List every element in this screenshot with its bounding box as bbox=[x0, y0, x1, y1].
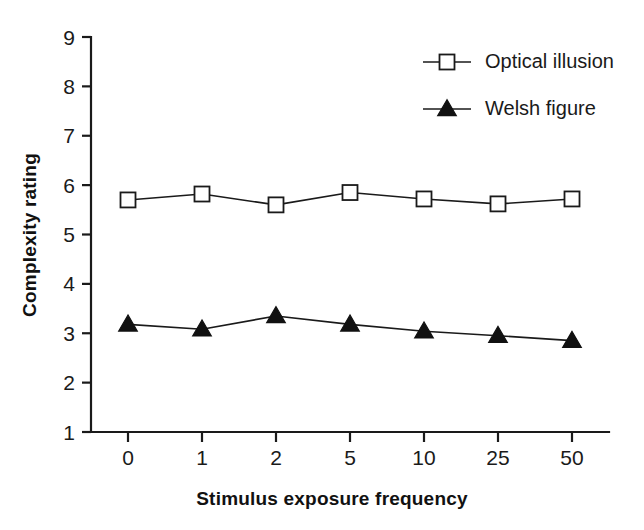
y-axis-ticks bbox=[82, 37, 91, 432]
data-point-marker-square bbox=[565, 191, 580, 206]
x-axis-tick-labels: 0125102550 bbox=[122, 446, 584, 469]
y-axis-tick-labels: 123456789 bbox=[63, 26, 75, 444]
legend-item-welsh-figure[interactable]: Welsh figure bbox=[423, 97, 596, 119]
data-point-marker-triangle bbox=[119, 315, 138, 331]
x-axis: 0125102550 bbox=[91, 432, 609, 469]
y-tick-label: 2 bbox=[63, 371, 75, 394]
y-tick-label: 7 bbox=[63, 124, 75, 147]
x-tick-label: 10 bbox=[412, 446, 435, 469]
data-point-marker-square bbox=[440, 55, 455, 70]
data-point-marker-square bbox=[195, 187, 210, 202]
y-tick-label: 4 bbox=[63, 272, 75, 295]
x-tick-label: 0 bbox=[122, 446, 134, 469]
x-tick-label: 50 bbox=[560, 446, 583, 469]
data-point-marker-square bbox=[121, 192, 136, 207]
y-axis-title: Complexity rating bbox=[19, 153, 40, 317]
data-point-marker-square bbox=[343, 185, 358, 200]
data-series-group bbox=[119, 185, 582, 347]
data-point-marker-square bbox=[491, 196, 506, 211]
data-point-marker-triangle bbox=[489, 326, 508, 342]
legend-label: Optical illusion bbox=[485, 50, 614, 72]
legend-item-optical-illusion[interactable]: Optical illusion bbox=[423, 50, 614, 72]
x-tick-label: 2 bbox=[270, 446, 282, 469]
x-tick-label: 1 bbox=[196, 446, 208, 469]
legend-label: Welsh figure bbox=[485, 97, 596, 119]
y-tick-label: 6 bbox=[63, 174, 75, 197]
chart-legend: Optical illusionWelsh figure bbox=[423, 50, 614, 119]
y-tick-label: 5 bbox=[63, 223, 75, 246]
x-tick-label: 25 bbox=[486, 446, 509, 469]
data-point-marker-triangle bbox=[267, 307, 286, 323]
x-axis-title: Stimulus exposure frequency bbox=[196, 488, 468, 509]
y-axis: 123456789 bbox=[63, 26, 91, 444]
data-point-marker-triangle bbox=[563, 331, 582, 347]
series-welsh-figure bbox=[119, 307, 582, 348]
x-axis-ticks bbox=[128, 432, 572, 442]
data-point-marker-square bbox=[417, 191, 432, 206]
line-chart: 123456789 0125102550 Optical illusionWel… bbox=[0, 0, 644, 530]
y-tick-label: 8 bbox=[63, 75, 75, 98]
y-tick-label: 1 bbox=[63, 421, 75, 444]
y-tick-label: 3 bbox=[63, 322, 75, 345]
chart-figure: 123456789 0125102550 Optical illusionWel… bbox=[0, 0, 644, 530]
series-optical-illusion bbox=[121, 185, 580, 212]
data-point-marker-square bbox=[269, 197, 284, 212]
data-point-marker-triangle bbox=[438, 100, 457, 116]
y-tick-label: 9 bbox=[63, 26, 75, 49]
x-tick-label: 5 bbox=[344, 446, 356, 469]
